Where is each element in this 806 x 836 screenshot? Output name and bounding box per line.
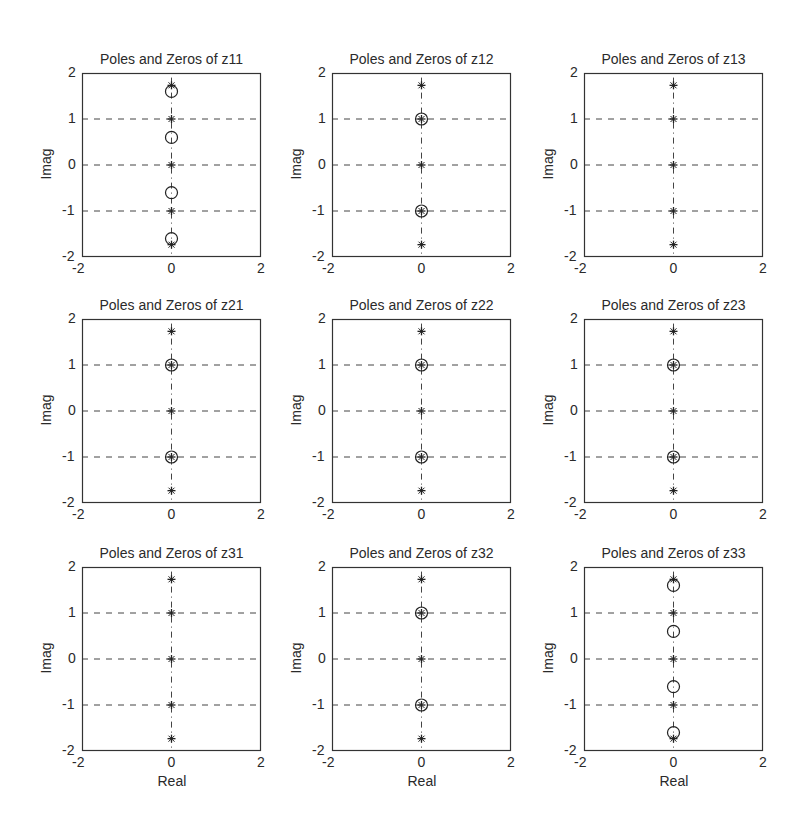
- x-tick-label: -2: [574, 260, 586, 276]
- pole-marker-icon: [670, 609, 678, 617]
- pole-marker-icon: [168, 327, 176, 335]
- pole-marker-icon: [168, 115, 176, 123]
- y-tick-label: 0: [318, 650, 326, 666]
- pole-marker-icon: [670, 701, 678, 709]
- x-tick-label: 2: [257, 506, 265, 522]
- pole-marker-icon: [418, 609, 426, 617]
- plot-area: [332, 73, 511, 257]
- pole-marker-icon: [418, 115, 426, 123]
- y-tick-label: -1: [62, 448, 74, 464]
- y-tick-label: 1: [318, 110, 326, 126]
- x-tick-label: 0: [168, 506, 176, 522]
- y-tick-label: 1: [318, 356, 326, 372]
- subplot-title: Poles and Zeros of z22: [322, 297, 522, 313]
- y-tick-label: 2: [68, 64, 76, 80]
- y-tick-label: 1: [68, 356, 76, 372]
- pole-marker-icon: [418, 81, 426, 89]
- y-axis-label: Imag: [288, 638, 304, 678]
- y-tick-label: 2: [68, 558, 76, 574]
- y-axis-label: Imag: [38, 144, 54, 184]
- y-tick-label: 2: [570, 558, 578, 574]
- y-tick-label: 1: [68, 110, 76, 126]
- pole-marker-icon: [418, 453, 426, 461]
- pole-marker-icon: [168, 735, 176, 743]
- x-axis-label: Real: [660, 773, 689, 789]
- y-tick-label: 1: [570, 110, 578, 126]
- y-tick-label: 0: [570, 650, 578, 666]
- pole-marker-icon: [168, 655, 176, 663]
- y-axis-label: Imag: [38, 638, 54, 678]
- y-tick-label: -1: [62, 202, 74, 218]
- y-tick-label: 0: [68, 402, 76, 418]
- pole-marker-icon: [418, 207, 426, 215]
- x-tick-label: 0: [418, 260, 426, 276]
- y-tick-label: -1: [564, 448, 576, 464]
- plot-area: [584, 319, 763, 503]
- plot-area: [82, 567, 261, 751]
- pole-marker-icon: [670, 241, 678, 249]
- y-axis-label: Imag: [540, 638, 556, 678]
- x-tick-label: 2: [759, 506, 767, 522]
- plot-area: [82, 319, 261, 503]
- y-tick-label: -1: [564, 696, 576, 712]
- y-tick-label: 1: [570, 604, 578, 620]
- x-tick-label: 0: [670, 506, 678, 522]
- y-tick-label: 1: [318, 604, 326, 620]
- y-axis-label: Imag: [540, 144, 556, 184]
- y-axis-label: Imag: [540, 390, 556, 430]
- plot-area: [584, 73, 763, 257]
- pole-marker-icon: [670, 407, 678, 415]
- x-tick-label: 0: [168, 260, 176, 276]
- y-tick-label: 0: [318, 402, 326, 418]
- x-tick-label: -2: [322, 754, 334, 770]
- pole-marker-icon: [168, 453, 176, 461]
- pole-marker-icon: [670, 207, 678, 215]
- pole-marker-icon: [418, 407, 426, 415]
- pole-marker-icon: [670, 453, 678, 461]
- pole-marker-icon: [418, 161, 426, 169]
- y-tick-label: 2: [570, 64, 578, 80]
- subplot-title: Poles and Zeros of z21: [72, 297, 272, 313]
- pole-marker-icon: [670, 115, 678, 123]
- pole-marker-icon: [418, 487, 426, 495]
- y-tick-label: -1: [62, 696, 74, 712]
- pole-marker-icon: [168, 207, 176, 215]
- x-tick-label: 0: [670, 260, 678, 276]
- subplot-title: Poles and Zeros of z32: [322, 545, 522, 561]
- y-tick-label: -1: [312, 696, 324, 712]
- y-tick-label: 2: [68, 310, 76, 326]
- y-axis-label: Imag: [288, 144, 304, 184]
- y-tick-label: -1: [312, 448, 324, 464]
- pole-marker-icon: [418, 361, 426, 369]
- x-tick-label: 2: [759, 260, 767, 276]
- x-tick-label: -2: [72, 506, 84, 522]
- pole-marker-icon: [670, 361, 678, 369]
- x-tick-label: 2: [257, 260, 265, 276]
- x-tick-label: 2: [507, 506, 515, 522]
- pole-marker-icon: [168, 701, 176, 709]
- y-tick-label: 0: [570, 402, 578, 418]
- y-axis-label: Imag: [38, 390, 54, 430]
- pole-marker-icon: [418, 575, 426, 583]
- x-tick-label: -2: [72, 260, 84, 276]
- pole-marker-icon: [168, 487, 176, 495]
- x-tick-label: 2: [507, 260, 515, 276]
- pole-marker-icon: [418, 735, 426, 743]
- pole-marker-icon: [168, 407, 176, 415]
- x-tick-label: 2: [257, 754, 265, 770]
- pole-marker-icon: [168, 575, 176, 583]
- x-tick-label: 0: [418, 754, 426, 770]
- pole-marker-icon: [670, 81, 678, 89]
- subplot-title: Poles and Zeros of z23: [574, 297, 774, 313]
- y-tick-label: 0: [318, 156, 326, 172]
- subplot-title: Poles and Zeros of z12: [322, 51, 522, 67]
- x-tick-label: 0: [670, 754, 678, 770]
- pole-marker-icon: [418, 701, 426, 709]
- subplot-title: Poles and Zeros of z31: [72, 545, 272, 561]
- y-axis-label: Imag: [288, 390, 304, 430]
- x-tick-label: -2: [322, 506, 334, 522]
- y-tick-label: 1: [68, 604, 76, 620]
- y-tick-label: 1: [570, 356, 578, 372]
- pole-marker-icon: [670, 487, 678, 495]
- plot-area: [584, 567, 763, 751]
